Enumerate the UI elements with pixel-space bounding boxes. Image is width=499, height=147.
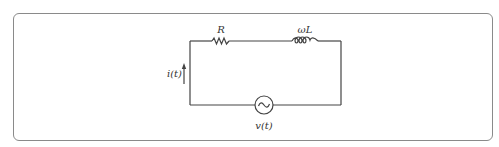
current-label: i(t) — [167, 68, 182, 79]
resistor-icon — [212, 38, 229, 44]
sine-wave-icon — [259, 103, 270, 107]
resistor-label: R — [216, 24, 225, 35]
source-label: v(t) — [255, 120, 273, 131]
arrow-head-icon — [182, 63, 186, 69]
inductor-label: ωL — [298, 24, 313, 35]
circuit-diagram: R ωL v(t) i(t) — [0, 0, 499, 147]
inductor-icon — [292, 37, 318, 43]
